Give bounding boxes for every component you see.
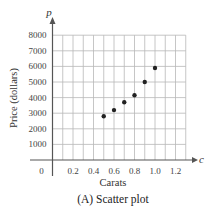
x-axis-arrow-icon [192, 157, 198, 163]
x-tick-label: 0.2 [67, 166, 78, 176]
y-variable-label: p [45, 6, 52, 18]
scatter-plot: 100020003000400050006000700080000.20.40.… [0, 0, 209, 209]
grid-lines [53, 35, 186, 160]
data-point [153, 66, 157, 70]
y-tick-label: 3000 [29, 108, 48, 118]
y-tick-label: 5000 [29, 77, 48, 87]
x-tick-label: 1.0 [149, 166, 161, 176]
origin-label: 0 [39, 166, 44, 176]
data-point [102, 114, 106, 118]
x-tick-label: 0.4 [88, 166, 100, 176]
data-point [143, 80, 147, 84]
x-tick-label: 0.8 [129, 166, 141, 176]
tick-labels: 100020003000400050006000700080000.20.40.… [29, 30, 182, 176]
y-tick-label: 1000 [29, 139, 48, 149]
data-point [122, 100, 126, 104]
figure-caption: (A) Scatter plot [77, 193, 149, 206]
y-tick-label: 8000 [29, 30, 48, 40]
x-axis-title: Carats [100, 177, 127, 188]
data-point [112, 108, 116, 112]
y-tick-label: 4000 [29, 93, 48, 103]
y-axis-title: Price (dollars) [8, 68, 20, 128]
data-points [102, 66, 158, 119]
y-tick-label: 6000 [29, 61, 48, 71]
x-tick-label: 1.2 [170, 166, 181, 176]
y-tick-label: 2000 [29, 124, 48, 134]
x-variable-label: c [199, 153, 204, 165]
y-tick-label: 7000 [29, 46, 48, 56]
x-tick-label: 0.6 [108, 166, 120, 176]
y-axis-arrow-icon [50, 17, 56, 24]
data-point [132, 93, 136, 97]
